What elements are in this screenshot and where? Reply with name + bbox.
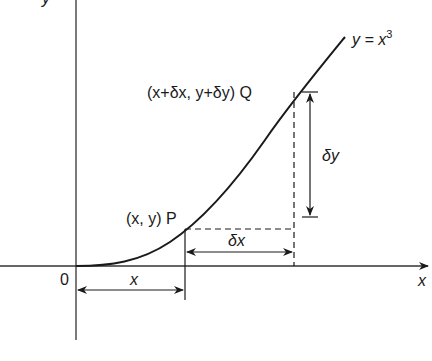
x-axis-label: x [417,272,427,289]
point-p-label: (x, y) P [126,210,177,227]
delta-y-label: δy [322,147,340,164]
curve-label-text: y = x [351,31,387,48]
curve-label-exponent: 3 [386,28,392,40]
diagram-canvas: y y = x3 (x+δx, y+δy) Q (x, y) P δx δy 0… [0,0,432,361]
point-q-label: (x+δx, y+δy) Q [147,84,252,101]
curve-y-equals-x-cubed [76,37,345,266]
origin-label: 0 [60,271,69,288]
curve-label: y = x3 [351,28,392,48]
delta-x-label: δx [228,232,246,249]
x-segment-label: x [129,271,139,288]
y-axis-label: y [41,0,51,7]
